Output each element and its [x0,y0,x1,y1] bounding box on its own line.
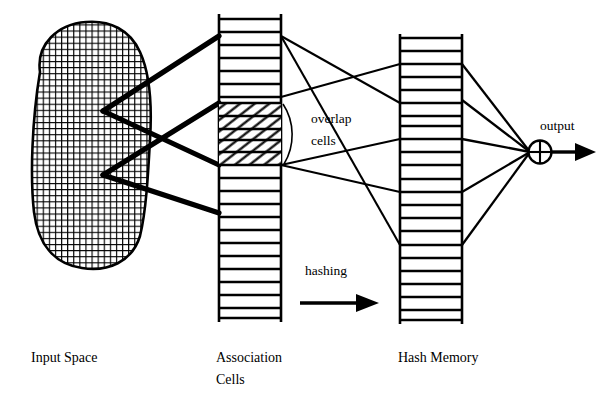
summation-line-4 [462,152,530,192]
output-arrow-head [575,143,596,161]
overlap-label-line1: overlap [311,111,352,126]
hashing-line-4 [281,165,400,192]
association-cell-dividers [219,19,281,318]
association-cells-label-line1: Association [216,350,282,365]
summation-lines-group [462,64,530,245]
diagram-canvas: overlap cells hashing output Input Space… [0,0,604,404]
hash-memory-cell-dividers [400,38,462,320]
cmac-hashing-diagram: overlap cells hashing output Input Space… [0,0,604,404]
hashing-arrow [300,294,379,312]
hash-memory-column [400,34,462,324]
hashing-line-3 [281,139,400,165]
hash-memory-label: Hash Memory [398,350,479,365]
summing-node [529,141,552,164]
association-cells-label-line2: Cells [216,372,245,387]
output-label: output [540,118,575,133]
input-space-label: Input Space [31,350,97,365]
summation-line-5 [462,152,530,245]
input-space-blob [32,22,151,269]
hashing-lines-group [281,36,400,245]
output-arrow [551,143,596,161]
overlap-cells-block [219,103,281,165]
input-space-region [32,22,151,269]
overlap-label-line2: cells [311,133,336,148]
hashing-arrow-head [356,294,379,312]
overlap-cells-brace [283,104,292,164]
hashing-label: hashing [305,263,347,278]
hashing-line-5 [281,36,400,245]
association-cells-column [219,14,281,322]
